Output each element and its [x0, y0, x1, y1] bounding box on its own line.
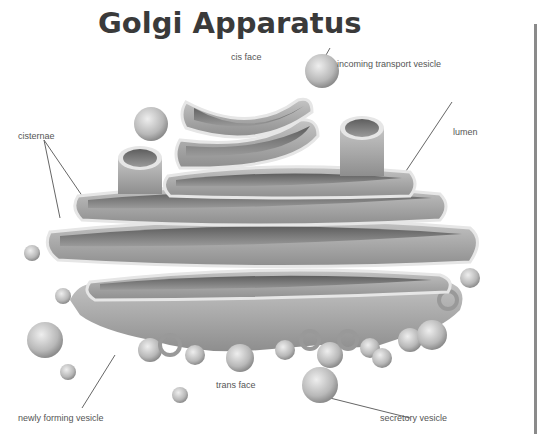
label-newly-forming-vesicle: newly forming vesicle [18, 413, 104, 423]
label-cis-face: cis face [231, 52, 262, 62]
golgi-illustration [0, 0, 543, 434]
label-cisternae: cisternae [18, 131, 55, 141]
label-secretory-vesicle: secretory vesicle [380, 413, 447, 423]
label-incoming-transport-vesicle: incoming transport vesicle [337, 59, 441, 69]
divider-line [534, 24, 537, 434]
label-lumen: lumen [453, 127, 478, 137]
cisternae-stack [47, 99, 477, 300]
label-trans-face: trans face [216, 380, 256, 390]
